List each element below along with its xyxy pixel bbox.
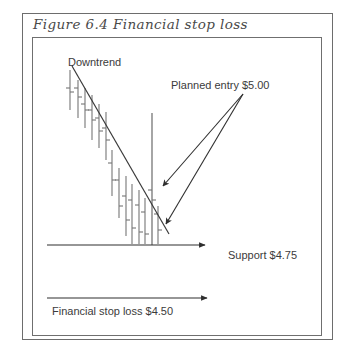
support-level-label: Support $4.75 — [228, 249, 297, 261]
financial-stop-loss-label: Financial stop loss $4.50 — [52, 305, 173, 317]
figure-caption: Figure 6.4 Financial stop loss — [33, 16, 248, 32]
downtrend-label: Downtrend — [68, 56, 121, 68]
figure-container: Figure 6.4 Financial stop loss — [0, 0, 345, 359]
planned-entry-label: Planned entry $5.00 — [171, 79, 269, 91]
